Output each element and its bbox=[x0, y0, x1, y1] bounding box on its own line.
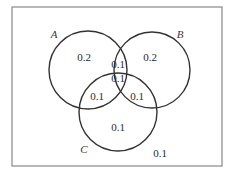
set-b-circle bbox=[114, 32, 190, 108]
set-b-label: B bbox=[177, 28, 184, 40]
region-ab-only-value: 0.1 bbox=[111, 58, 125, 70]
set-c-label: C bbox=[80, 143, 88, 155]
set-c-circle bbox=[79, 73, 157, 151]
region-b-only-value: 0.2 bbox=[143, 51, 157, 63]
region-outside-value: 0.1 bbox=[153, 147, 167, 159]
region-a-only-value: 0.2 bbox=[77, 51, 91, 63]
venn-diagram: A B C 0.2 0.2 0.1 0.1 0.1 0.1 0.1 0.1 bbox=[0, 0, 235, 177]
set-a-circle bbox=[49, 31, 127, 109]
region-abc-value: 0.1 bbox=[111, 72, 125, 84]
set-a-label: A bbox=[50, 28, 58, 40]
region-c-only-value: 0.1 bbox=[111, 121, 125, 133]
venn-svg: A B C 0.2 0.2 0.1 0.1 0.1 0.1 0.1 0.1 bbox=[0, 0, 235, 177]
region-bc-only-value: 0.1 bbox=[130, 90, 144, 102]
region-ac-only-value: 0.1 bbox=[90, 90, 104, 102]
